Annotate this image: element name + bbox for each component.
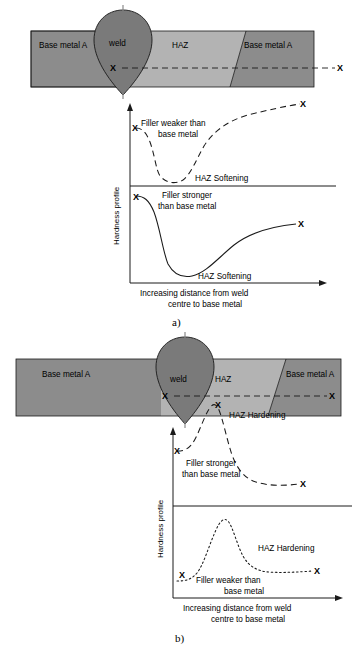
curve-a-upper-feature-label: HAZ Softening xyxy=(195,174,249,183)
panel-a-chart: Hardness profile X X Filler weaker than … xyxy=(112,99,336,309)
curve-a-lower-annotation-line2: than base metal xyxy=(158,202,216,211)
section-marker-right-b: X xyxy=(329,391,335,401)
base-metal-right-label-b: Base metal A xyxy=(286,370,335,379)
panel-b-chart: Hardness profile X X X HAZ Hardening Fil… xyxy=(156,400,352,624)
y-axis-label-b: Hardness profile xyxy=(156,499,165,558)
curve-a-upper-annotation-line1: Filler weaker than xyxy=(141,119,206,128)
curve-b-upper-end-marker: X xyxy=(300,479,306,489)
y-axis-arrow-b xyxy=(170,427,176,435)
haz-label-b: HAZ xyxy=(215,375,231,384)
curve-b-lower-annotation-line1: Filler weaker than xyxy=(196,576,261,585)
x-axis-label-line1-b: Increasing distance from weld xyxy=(183,604,292,613)
curve-b-lower-annotation-line2: base metal xyxy=(224,587,264,596)
x-axis-label-line2-a: centre to base metal xyxy=(168,300,242,309)
x-axis-arrow-b xyxy=(335,595,343,601)
base-metal-left-block-b xyxy=(16,359,161,416)
hardness-curve-a-upper xyxy=(136,104,300,183)
base-metal-left-label-b: Base metal A xyxy=(42,370,91,379)
panel-letter-a: a) xyxy=(172,316,181,329)
x-axis-arrow-a xyxy=(319,280,327,286)
curve-a-upper-end-marker: X xyxy=(300,99,306,109)
y-axis-label-a: Hardness profile xyxy=(112,186,121,245)
curve-a-lower-feature-label: HAZ Softening xyxy=(198,272,252,281)
curve-b-lower-end-marker: X xyxy=(314,566,320,576)
curve-a-lower-end-marker: X xyxy=(298,219,304,229)
curve-b-lower-start-marker: X xyxy=(179,570,185,580)
weld-label-b: weld xyxy=(169,375,187,384)
curve-b-lower-feature-label: HAZ Hardening xyxy=(258,544,315,553)
curve-b-upper-feature-label: HAZ Hardening xyxy=(229,411,286,420)
panel-a-weld-section: Base metal A weld HAZ Base metal A X X xyxy=(31,5,343,99)
curve-b-upper-annotation-line2: than base metal xyxy=(182,470,240,479)
x-axis-label-line2-b: centre to base metal xyxy=(211,615,285,624)
panel-letter-b: b) xyxy=(175,632,185,645)
curve-b-upper-annotation-line1: Filler stronger xyxy=(186,459,236,468)
base-metal-left-label-a: Base metal A xyxy=(39,41,88,50)
base-metal-right-label-a: Base metal A xyxy=(244,41,293,50)
curve-b-upper-peak-marker: X xyxy=(215,400,221,410)
section-marker-left-b: X xyxy=(162,391,168,401)
section-marker-right-a: X xyxy=(337,63,343,73)
curve-a-upper-annotation-line2: base metal xyxy=(158,130,198,139)
section-marker-left-a: X xyxy=(110,63,116,73)
haz-label-a: HAZ xyxy=(172,41,188,50)
y-axis-arrow-a xyxy=(127,103,133,111)
curve-b-upper-start-marker: X xyxy=(174,446,180,456)
panel-b-weld-section: Base metal A weld HAZ Base metal A X X xyxy=(16,332,341,428)
weld-label-a: weld xyxy=(108,39,126,48)
curve-a-upper-start-marker: X xyxy=(132,123,138,133)
curve-a-lower-start-marker: X xyxy=(133,192,139,202)
curve-a-lower-annotation-line1: Filler stronger xyxy=(162,191,212,200)
x-axis-label-line1-a: Increasing distance from weld xyxy=(140,289,249,298)
weld-hardness-profile-figure: Base metal A weld HAZ Base metal A X X H… xyxy=(0,0,359,648)
